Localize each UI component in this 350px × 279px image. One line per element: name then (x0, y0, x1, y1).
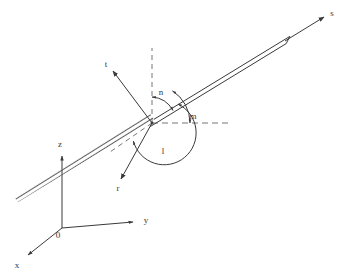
vector-s-label: s (330, 8, 334, 18)
vector-r-label: r (117, 183, 120, 193)
vector-t-label: t (105, 59, 108, 69)
axis-z-label: z (58, 139, 62, 149)
beam-vertex-point (151, 122, 154, 125)
angle-n-arc (152, 97, 173, 111)
vector-s-arrow (285, 17, 324, 41)
beam-edge-lower (150, 44, 286, 127)
beam-element (14, 36, 290, 202)
technical-diagram: z y x 0 s t r (0, 0, 350, 279)
axis-y-line (62, 222, 133, 228)
reference-lines (110, 48, 228, 152)
angle-l-label: l (162, 146, 165, 156)
beam-edge-upper (154, 36, 290, 119)
vector-t-arrow (113, 71, 152, 123)
angle-m-label: m (189, 111, 196, 121)
axis-x-label: x (15, 260, 20, 270)
axis-y-label: y (144, 215, 149, 225)
angle-n-label: n (159, 87, 164, 97)
diagram-canvas: z y x 0 s t r (0, 0, 350, 279)
origin-label: 0 (56, 230, 61, 240)
direction-vectors: s t r (105, 8, 335, 193)
